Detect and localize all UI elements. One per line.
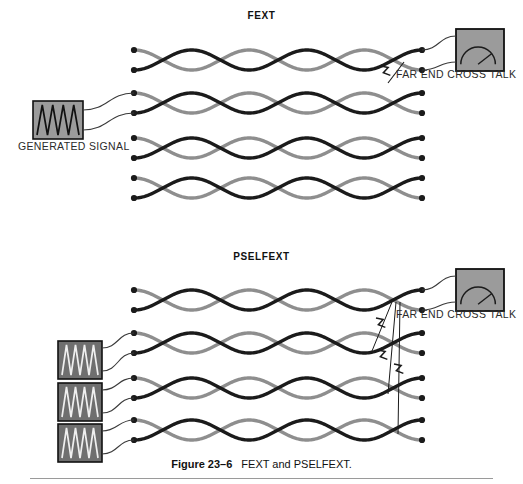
figure-fext-pselfext: FEXT PSELFEXT GENERATED SIGNAL FAR END C… (0, 0, 523, 484)
figure-caption-text: FEXT and PSELFEXT. (241, 458, 351, 470)
fext-generator-lead-1 (83, 93, 134, 110)
pselfext-meter (456, 269, 504, 311)
fext-section (33, 29, 504, 201)
pselfext-pair-1-terminal-dot-2 (131, 307, 137, 313)
figure-caption: Figure 23–6FEXT and PSELFEXT. (0, 458, 523, 470)
pselfext-twisted-pair-2 (131, 330, 425, 356)
pselfext-pair-2-terminal-dot-4 (419, 350, 425, 356)
fext-pair-2-terminal-dot-3 (419, 90, 425, 96)
pselfext-twisted-pair-4 (131, 417, 425, 443)
pselfext-pair-3-terminal-dot-4 (419, 395, 425, 401)
fext-pair-4-terminal-dot-4 (419, 195, 425, 201)
fext-twisted-pair-1 (131, 47, 425, 73)
pselfext-generator-2-lead-2 (102, 398, 134, 413)
fext-meter-lead-1 (422, 36, 456, 50)
fext-pair-4-terminal-dot-2 (131, 195, 137, 201)
pselfext-generator-2-lead-1 (102, 378, 134, 390)
fext-twisted-pair-2 (131, 90, 425, 116)
fext-meter-box (456, 29, 504, 71)
fext-signal-generator (33, 101, 83, 139)
pselfext-pair-1-terminal-dot-1 (131, 287, 137, 293)
pselfext-crosstalk-bolt-icon-3 (394, 364, 403, 373)
pselfext-generator-3-lead-1 (102, 420, 134, 431)
fext-pair-3-terminal-dot-3 (419, 135, 425, 141)
pselfext-crosstalk-coupling-line-2 (388, 302, 396, 394)
pselfext-twisted-pair-3 (131, 375, 425, 401)
fext-pair-3-terminal-dot-1 (131, 135, 137, 141)
fext-pair-1-terminal-dot-2 (131, 67, 137, 73)
fext-pair-2-terminal-dot-4 (419, 110, 425, 116)
fext-pair-3-terminal-dot-4 (419, 155, 425, 161)
pselfext-meter-lead-1 (422, 276, 456, 290)
fext-pair-4-terminal-dot-1 (131, 175, 137, 181)
pselfext-signal-generator-2 (58, 383, 102, 421)
fext-far-end-cross-talk-label: FAR END CROSS TALK (396, 68, 516, 80)
fext-twisted-pair-4 (131, 175, 425, 201)
fext-pair-4-terminal-dot-3 (419, 175, 425, 181)
pselfext-generator-1-lead-2 (102, 353, 134, 371)
caption-divider-rule (30, 478, 493, 479)
fext-pair-3-terminal-dot-2 (131, 155, 137, 161)
fext-twisted-pair-3 (131, 135, 425, 161)
figure-caption-number: Figure 23–6 (171, 458, 232, 470)
fext-pair-1-terminal-dot-1 (131, 47, 137, 53)
pselfext-pair-2-terminal-dot-3 (419, 330, 425, 336)
pselfext-signal-generator-3 (58, 424, 102, 462)
pselfext-pair-4-terminal-dot-3 (419, 417, 425, 423)
pselfext-pair-4-terminal-dot-4 (419, 437, 425, 443)
pselfext-meter-box (456, 269, 504, 311)
pselfext-signal-generator-1 (58, 341, 102, 379)
generated-signal-label: GENERATED SIGNAL (18, 140, 130, 152)
fext-generator-lead-2 (83, 113, 134, 130)
pselfext-section (58, 269, 504, 462)
pselfext-far-end-cross-talk-label: FAR END CROSS TALK (396, 308, 516, 320)
fext-meter (456, 29, 504, 71)
pselfext-generator-1-lead-1 (102, 333, 134, 348)
pselfext-generator-3-lead-2 (102, 440, 134, 454)
pselfext-pair-3-terminal-dot-3 (419, 375, 425, 381)
pselfext-twisted-pair-1 (131, 287, 425, 313)
